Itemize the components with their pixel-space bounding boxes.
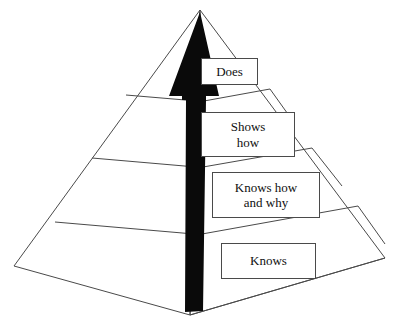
slant-right-tier3 [358, 206, 385, 244]
upward-progression-arrow [169, 12, 219, 312]
level-label-does: Does [201, 58, 258, 85]
pyramid-left-face-edge [14, 10, 200, 315]
pyramid-graphic [0, 0, 397, 329]
divider-left-tier3 [55, 222, 194, 234]
pyramid-left-tier-dividers [55, 95, 197, 234]
level-label-knows-how-and-why: Knows how and why [212, 172, 320, 218]
level-label-shows-how: Shows how [201, 112, 295, 157]
divider-left-tier2 [92, 158, 196, 167]
pyramid-diagram: Does Shows how Knows how and why Knows [0, 0, 397, 329]
level-label-knows: Knows [221, 243, 316, 279]
